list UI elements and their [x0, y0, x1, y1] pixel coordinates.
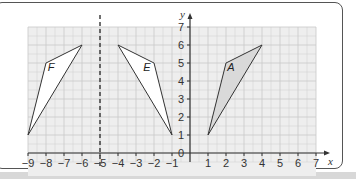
y-tick-label: 4 — [178, 75, 184, 87]
x-tick-label: −9 — [22, 157, 35, 169]
x-tick-label: −6 — [76, 157, 89, 169]
x-tick-label: 5 — [277, 157, 283, 169]
y-axis-label: y — [179, 8, 185, 20]
coordinate-grid: xy−9−8−7−6−5−4−3−2−1123456712345670AEF — [0, 0, 356, 179]
x-tick-label: 2 — [223, 157, 229, 169]
y-tick-label: 3 — [178, 93, 184, 105]
y-tick-label: 1 — [178, 129, 184, 141]
y-tick-label: 6 — [178, 39, 184, 51]
x-tick-label: −4 — [112, 157, 125, 169]
x-tick-label: −3 — [130, 157, 143, 169]
y-tick-label: 7 — [178, 21, 184, 33]
x-tick-label: 7 — [313, 157, 319, 169]
x-tick-label: 6 — [295, 157, 301, 169]
x-axis-label: x — [327, 155, 333, 167]
shape-label-e: E — [143, 61, 151, 73]
shape-label-a: A — [226, 61, 234, 73]
x-tick-label: −2 — [148, 157, 161, 169]
y-tick-label: 2 — [178, 111, 184, 123]
x-tick-label: 4 — [259, 157, 265, 169]
origin-label: 0 — [178, 147, 184, 159]
x-tick-label: −7 — [58, 157, 71, 169]
x-tick-label: 3 — [241, 157, 247, 169]
x-tick-label: −1 — [166, 157, 179, 169]
x-tick-label: 1 — [205, 157, 211, 169]
x-tick-label: −8 — [40, 157, 53, 169]
y-axis-arrow-icon — [188, 13, 193, 19]
y-tick-label: 5 — [178, 57, 184, 69]
